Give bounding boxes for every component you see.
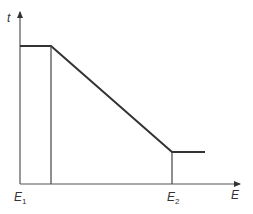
x-axis-label: E [231,188,240,202]
y-axis-label: t [7,11,11,25]
tick-label-e1: E1 [14,190,27,206]
t-curve [20,46,205,152]
diagram-canvas: t E E1 E2 [0,0,253,214]
tick-label-e2: E2 [167,190,180,206]
